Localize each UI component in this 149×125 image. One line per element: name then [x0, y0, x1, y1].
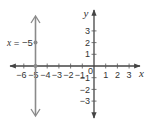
x-tick-labels: −6 −5 −4 −3 −2 −1 1 2 3 — [16, 70, 131, 80]
y-axis-label: y — [83, 7, 89, 19]
x-tick-label: −6 — [16, 70, 26, 80]
y-tick-label: 3 — [85, 26, 90, 36]
x-tick-label: −5 — [28, 70, 38, 80]
x-tick-label: −2 — [63, 70, 73, 80]
y-tick-label: −3 — [80, 96, 90, 106]
x-tick-label: 1 — [103, 70, 108, 80]
y-tick-label: 1 — [85, 49, 90, 59]
x-tick-label: −4 — [40, 70, 50, 80]
y-tick-label: −1 — [80, 73, 90, 83]
equation-label: x = −5 — [6, 37, 33, 48]
x-axis-label: x — [138, 67, 144, 79]
y-tick-label: −2 — [80, 85, 90, 95]
coordinate-plane: −6 −5 −4 −3 −2 −1 1 2 3 0 3 2 1 −1 −2 −3… — [0, 0, 149, 125]
y-tick-label: 2 — [85, 38, 90, 48]
x-tick-label: 2 — [115, 70, 120, 80]
point-neg5-2 — [34, 41, 38, 45]
point-neg5-0 — [34, 64, 38, 68]
equation-value: = −5 — [11, 37, 33, 48]
x-tick-label: −3 — [52, 70, 62, 80]
x-tick-label: 3 — [127, 70, 132, 80]
